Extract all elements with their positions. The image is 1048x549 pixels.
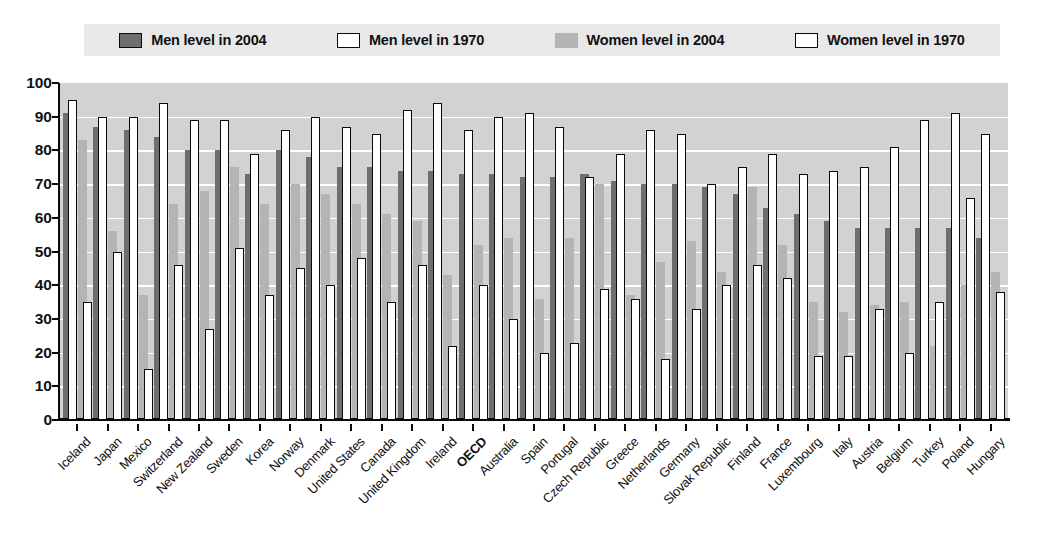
bar-men-1970[interactable]	[920, 120, 929, 420]
bar-men-1970[interactable]	[799, 174, 808, 420]
x-tick-mark	[168, 424, 170, 431]
bar-women-1970[interactable]	[661, 359, 670, 420]
legend-item-men-1970[interactable]: Men level in 1970	[337, 32, 484, 48]
bar-women-1970[interactable]	[692, 309, 701, 420]
bar-women-1970[interactable]	[844, 356, 853, 420]
bar-group[interactable]	[610, 83, 640, 420]
bar-group[interactable]	[976, 83, 1006, 420]
bar-women-1970[interactable]	[265, 295, 274, 420]
bar-group[interactable]	[214, 83, 244, 420]
bar-men-1970[interactable]	[494, 117, 503, 420]
bar-women-1970[interactable]	[722, 285, 731, 420]
bar-women-1970[interactable]	[174, 265, 183, 420]
bar-men-1970[interactable]	[951, 113, 960, 420]
bar-men-1970[interactable]	[68, 100, 77, 420]
bar-women-1970[interactable]	[83, 302, 92, 420]
bar-women-1970[interactable]	[326, 285, 335, 420]
bar-group[interactable]	[367, 83, 397, 420]
chart-root: Men level in 2004Men level in 1970Women …	[0, 0, 1048, 549]
bar-women-1970[interactable]	[235, 248, 244, 420]
bar-men-1970[interactable]	[555, 127, 564, 420]
bar-group[interactable]	[184, 83, 214, 420]
legend-item-women-2004[interactable]: Women level in 2004	[555, 32, 725, 48]
bar-men-1970[interactable]	[129, 117, 138, 420]
bar-men-1970[interactable]	[768, 154, 777, 420]
bar-women-1970[interactable]	[144, 369, 153, 420]
bar-group[interactable]	[458, 83, 488, 420]
bar-women-1970[interactable]	[631, 299, 640, 420]
bar-group[interactable]	[702, 83, 732, 420]
bar-women-1970[interactable]	[875, 309, 884, 420]
bar-group[interactable]	[793, 83, 823, 420]
bar-women-1970[interactable]	[600, 289, 609, 420]
bar-women-1970[interactable]	[479, 285, 488, 420]
bar-men-1970[interactable]	[190, 120, 199, 420]
bar-women-1970[interactable]	[418, 265, 427, 420]
bar-women-1970[interactable]	[113, 252, 122, 421]
bar-women-1970[interactable]	[814, 356, 823, 420]
bar-group[interactable]	[306, 83, 336, 420]
bar-men-1970[interactable]	[220, 120, 229, 420]
bar-men-1970[interactable]	[403, 110, 412, 420]
bar-men-1970[interactable]	[464, 130, 473, 420]
bar-group[interactable]	[915, 83, 945, 420]
bar-women-1970[interactable]	[996, 292, 1005, 420]
bar-group[interactable]	[945, 83, 975, 420]
bar-group[interactable]	[123, 83, 153, 420]
bar-men-1970[interactable]	[860, 167, 869, 420]
bar-men-1970[interactable]	[159, 103, 168, 420]
bar-group[interactable]	[671, 83, 701, 420]
bar-group[interactable]	[854, 83, 884, 420]
bar-group[interactable]	[275, 83, 305, 420]
y-tick-label: 80	[35, 142, 52, 158]
legend-item-men-2004[interactable]: Men level in 2004	[119, 32, 266, 48]
bar-group[interactable]	[92, 83, 122, 420]
bar-men-1970[interactable]	[890, 147, 899, 420]
bar-men-1970[interactable]	[677, 134, 686, 420]
bar-women-1970[interactable]	[570, 343, 579, 421]
bar-group[interactable]	[823, 83, 853, 420]
bar-women-1970[interactable]	[387, 302, 396, 420]
bar-men-1970[interactable]	[829, 171, 838, 420]
bar-women-1970[interactable]	[905, 353, 914, 420]
bar-men-1970[interactable]	[250, 154, 259, 420]
bar-men-1970[interactable]	[616, 154, 625, 420]
legend-item-women-1970[interactable]: Women level in 1970	[795, 32, 965, 48]
bar-women-1970[interactable]	[783, 278, 792, 420]
bar-men-1970[interactable]	[646, 130, 655, 420]
bar-women-1970[interactable]	[753, 265, 762, 420]
bar-men-1970[interactable]	[981, 134, 990, 420]
bar-women-1970[interactable]	[448, 346, 457, 420]
bar-women-1970[interactable]	[509, 319, 518, 420]
bar-group[interactable]	[884, 83, 914, 420]
bar-group[interactable]	[732, 83, 762, 420]
bar-group[interactable]	[427, 83, 457, 420]
bar-women-1970[interactable]	[935, 302, 944, 420]
bar-group[interactable]	[549, 83, 579, 420]
bar-group[interactable]	[336, 83, 366, 420]
bar-men-1970[interactable]	[585, 177, 594, 420]
bar-group[interactable]	[153, 83, 183, 420]
bar-men-1970[interactable]	[707, 184, 716, 420]
bar-group[interactable]	[397, 83, 427, 420]
bar-women-1970[interactable]	[296, 268, 305, 420]
bar-group[interactable]	[488, 83, 518, 420]
bar-men-1970[interactable]	[372, 134, 381, 420]
bar-group[interactable]	[580, 83, 610, 420]
bar-men-1970[interactable]	[433, 103, 442, 420]
bar-men-1970[interactable]	[281, 130, 290, 420]
bar-men-1970[interactable]	[738, 167, 747, 420]
bar-men-1970[interactable]	[342, 127, 351, 420]
bar-group[interactable]	[245, 83, 275, 420]
bar-men-1970[interactable]	[98, 117, 107, 420]
bar-men-1970[interactable]	[311, 117, 320, 420]
bar-group[interactable]	[62, 83, 92, 420]
bar-women-1970[interactable]	[966, 198, 975, 420]
bar-group[interactable]	[762, 83, 792, 420]
bar-group[interactable]	[519, 83, 549, 420]
bar-group[interactable]	[641, 83, 671, 420]
bar-women-1970[interactable]	[540, 353, 549, 420]
bar-women-1970[interactable]	[205, 329, 214, 420]
bar-women-1970[interactable]	[357, 258, 366, 420]
bar-men-1970[interactable]	[525, 113, 534, 420]
